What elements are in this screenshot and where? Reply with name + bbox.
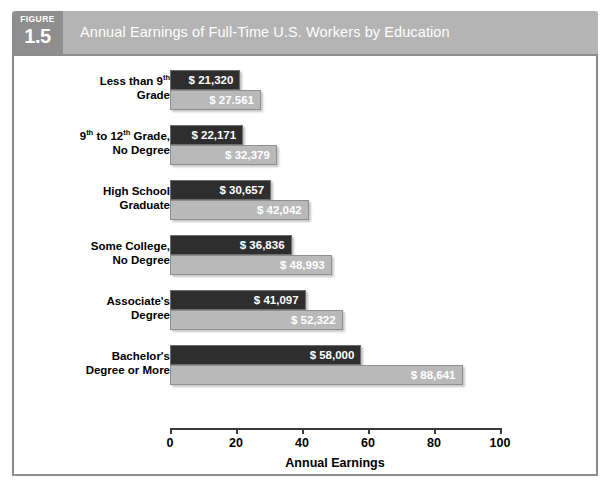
x-axis-title: Annual Earnings xyxy=(170,456,500,470)
bar-value-label: $ 88,641 xyxy=(411,369,456,381)
bar-light: $ 42,042 xyxy=(170,200,309,220)
bar-value-label: $ 36,836 xyxy=(240,239,285,251)
bar-value-label: $ 32,379 xyxy=(225,149,270,161)
x-axis-tick xyxy=(500,428,502,434)
bar-dark: $ 36,836 xyxy=(170,235,292,255)
bar-group-label: 9th to 12th Grade,No Degree xyxy=(0,129,170,157)
bar-dark: $ 21,320 xyxy=(170,70,240,90)
figure-badge-number: 1.5 xyxy=(12,25,63,47)
x-axis-tick-label: 40 xyxy=(295,436,309,450)
x-axis-tick xyxy=(368,428,370,434)
bar-group-label: Some College,No Degree xyxy=(0,239,170,267)
bar-light: $ 88,641 xyxy=(170,365,463,385)
x-axis-tick-label: 60 xyxy=(361,436,375,450)
x-axis-tick xyxy=(302,428,304,434)
bar-light: $ 32,379 xyxy=(170,145,277,165)
bar-dark: $ 22,171 xyxy=(170,125,243,145)
x-axis-tick-label: 100 xyxy=(490,436,511,450)
bar-value-label: $ 21,320 xyxy=(189,74,234,86)
x-axis-line xyxy=(170,428,500,430)
bar-value-label: $ 48,993 xyxy=(280,259,325,271)
bar-dark: $ 30,657 xyxy=(170,180,271,200)
x-axis-tick xyxy=(236,428,238,434)
bar-value-label: $ 42,042 xyxy=(257,204,302,216)
x-axis-tick-label: 20 xyxy=(229,436,243,450)
figure-title: Annual Earnings of Full-Time U.S. Worker… xyxy=(80,24,450,40)
figure-badge-word: FIGURE xyxy=(12,14,63,25)
chart-frame: Less than 9thGrade$ 21,320$ 27.5619th to… xyxy=(12,54,598,476)
bar-light: $ 48,993 xyxy=(170,255,332,275)
bar-light: $ 52,322 xyxy=(170,310,343,330)
bar-group-label: High SchoolGraduate xyxy=(0,184,170,212)
figure-root: FIGURE 1.5 Annual Earnings of Full-Time … xyxy=(0,0,609,489)
bar-value-label: $ 41,097 xyxy=(254,294,299,306)
bar-dark: $ 58,000 xyxy=(170,345,361,365)
bar-group-label: Less than 9thGrade xyxy=(0,74,170,102)
bar-value-label: $ 58,000 xyxy=(310,349,355,361)
bar-group-label: Bachelor'sDegree or More xyxy=(0,349,170,377)
x-axis-tick xyxy=(170,428,172,434)
x-axis-tick xyxy=(434,428,436,434)
x-axis-tick-label: 0 xyxy=(167,436,174,450)
bar-value-label: $ 22,171 xyxy=(191,129,236,141)
figure-badge: FIGURE 1.5 xyxy=(12,11,63,54)
bar-value-label: $ 27.561 xyxy=(209,94,254,106)
figure-header-band: FIGURE 1.5 Annual Earnings of Full-Time … xyxy=(12,11,598,54)
x-axis-tick-label: 80 xyxy=(427,436,441,450)
bar-light: $ 27.561 xyxy=(170,90,261,110)
bar-group-label: Associate'sDegree xyxy=(0,294,170,322)
plot-area: Less than 9thGrade$ 21,320$ 27.5619th to… xyxy=(14,56,600,478)
bar-value-label: $ 52,322 xyxy=(291,314,336,326)
bar-value-label: $ 30,657 xyxy=(219,184,264,196)
bar-dark: $ 41,097 xyxy=(170,290,306,310)
